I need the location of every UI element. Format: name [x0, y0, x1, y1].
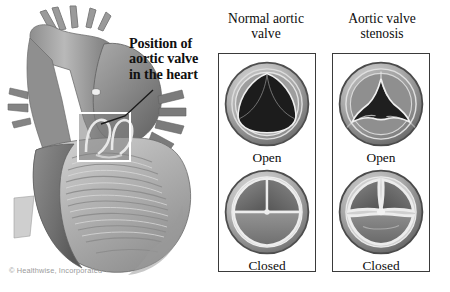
aortic-valve-figure: Position of aortic valve in the heart © …: [0, 0, 450, 292]
valve-cell-normal-closed: Closed: [219, 167, 315, 274]
callout-line-1: Position of: [129, 36, 221, 51]
state-label-normal-closed: Closed: [219, 258, 315, 274]
heading-normal-aortic-valve: Normal aortic valve: [214, 12, 318, 41]
normal-closed-valve-icon: [222, 167, 312, 257]
callout-leader-line: [95, 84, 155, 132]
heading-normal-line-1: Normal aortic: [214, 12, 318, 27]
heading-normal-line-2: valve: [214, 27, 318, 42]
panel-normal-aortic-valve: Open: [218, 53, 316, 272]
panel-aortic-valve-stenosis: Open: [332, 53, 430, 272]
state-label-normal-open: Open: [219, 150, 315, 166]
state-label-stenotic-closed: Closed: [333, 258, 429, 274]
heading-stenosis-line-2: stenosis: [330, 27, 434, 42]
copyright-notice: © Healthwise, Incorporated: [9, 266, 102, 275]
valve-cell-normal-open: Open: [219, 59, 315, 166]
normal-open-valve-icon: [222, 59, 312, 149]
stenotic-open-valve-icon: [336, 59, 426, 149]
callout-line-2: aortic valve: [129, 51, 221, 66]
state-label-stenotic-open: Open: [333, 150, 429, 166]
heading-stenosis-line-1: Aortic valve: [330, 12, 434, 27]
callout-line-3: in the heart: [129, 67, 221, 82]
valve-cell-stenotic-open: Open: [333, 59, 429, 166]
callout-label: Position of aortic valve in the heart: [129, 36, 221, 82]
stenotic-closed-valve-icon: [336, 167, 426, 257]
heading-aortic-valve-stenosis: Aortic valve stenosis: [330, 12, 434, 41]
valve-cell-stenotic-closed: Closed: [333, 167, 429, 274]
